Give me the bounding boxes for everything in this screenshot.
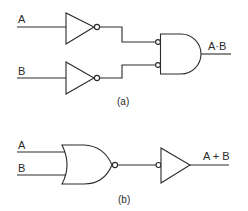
buffer-gate <box>161 148 190 183</box>
output-label-b: A + B <box>203 150 230 162</box>
and-input-bubble-2 <box>156 63 161 68</box>
caption-b: (b) <box>118 194 130 205</box>
caption-a: (a) <box>117 96 129 107</box>
input-b-label-b: B <box>18 162 25 174</box>
diagram-a: A B A·B (a) <box>17 13 231 107</box>
nor-gate <box>62 145 112 184</box>
and-input-bubble-1 <box>156 40 161 45</box>
not-gate-a <box>66 13 94 44</box>
not-gate-b <box>66 62 94 94</box>
logic-diagram: A B A·B (a) A B A + B <box>0 0 248 211</box>
output-label-a: A·B <box>208 40 226 52</box>
wire-not-b-to-and <box>100 65 157 78</box>
inverter-input-bubble <box>156 163 161 168</box>
inversion-bubble-a <box>94 24 99 29</box>
inversion-bubble-b <box>94 75 99 80</box>
input-b-label: B <box>18 65 25 77</box>
input-a-label: A <box>18 13 26 25</box>
diagram-b: A B A + B (b) <box>17 139 230 205</box>
input-a-label-b: A <box>18 139 26 151</box>
and-gate <box>161 34 202 74</box>
nor-output-bubble <box>112 162 117 167</box>
wire-not-a-to-and <box>100 27 157 42</box>
